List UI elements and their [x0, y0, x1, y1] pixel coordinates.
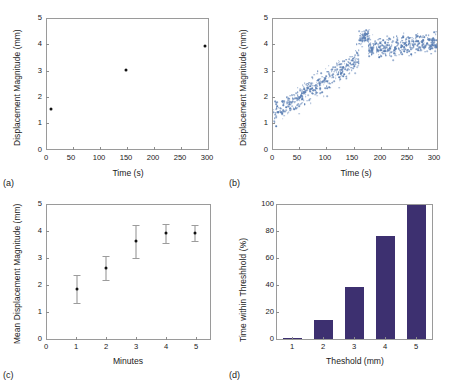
scatter-cloud: [273, 19, 437, 149]
scatter-point: [417, 45, 419, 47]
scatter-point: [306, 100, 308, 102]
xtick: 2: [98, 343, 114, 351]
scatter-point: [411, 54, 413, 56]
ytick: 0: [250, 335, 274, 343]
scatter-point: [377, 43, 379, 45]
panel-letter-b: (b): [229, 178, 240, 188]
scatter-point: [302, 97, 304, 99]
scatter-point: [355, 72, 357, 74]
ytick: 4: [24, 40, 42, 48]
scatter-point: [399, 50, 401, 52]
scatter-point: [416, 48, 418, 50]
panel-d-xlabel: Theshold (mm): [304, 356, 406, 366]
scatter-point: [323, 80, 325, 82]
scatter-point: [348, 73, 350, 75]
scatter-point: [294, 101, 296, 103]
scatter-point: [366, 33, 368, 35]
scatter-point: [413, 43, 415, 45]
scatter-point: [404, 50, 406, 52]
panel-c-ylabel: Mean Displacement Magnitude (mm): [12, 203, 22, 344]
scatter-point: [328, 77, 330, 79]
scatter-point: [338, 60, 340, 62]
panel-b: Displacement Magnitude (mm) 5 4 3 2 1 0 …: [226, 0, 453, 195]
scatter-point: [429, 48, 431, 50]
scatter-point: [435, 39, 437, 41]
scatter-point: [307, 94, 309, 96]
scatter-point: [423, 40, 425, 42]
scatter-point: [291, 94, 293, 96]
scatter-point: [389, 38, 391, 40]
scatter-point: [302, 102, 304, 104]
scatter-point: [303, 99, 305, 101]
scatter-point: [419, 46, 421, 48]
panel-b-ylabel: Displacement Magnitude (mm): [238, 29, 248, 146]
xtick: 3: [128, 343, 144, 351]
xtick: 100: [89, 154, 109, 162]
scatter-point: [283, 100, 285, 102]
scatter-point: [371, 53, 373, 55]
xtick: 0: [264, 154, 280, 162]
scatter-point: [312, 93, 314, 95]
scatter-point: [363, 39, 365, 41]
scatter-point: [344, 74, 346, 76]
scatter-point: [361, 46, 363, 48]
scatter-point: [411, 48, 413, 50]
scatter-point: [348, 69, 350, 71]
scatter-point: [369, 55, 371, 57]
scatter-point: [274, 117, 276, 119]
scatter-point: [276, 125, 278, 127]
scatter-point: [319, 84, 321, 86]
scatter-point: [359, 35, 361, 37]
xtick: 300: [197, 154, 217, 162]
scatter-point: [339, 87, 341, 89]
scatter-point: [388, 39, 390, 41]
xtick: 200: [370, 154, 390, 162]
scatter-point: [379, 56, 381, 58]
errorbar-series: [47, 205, 210, 339]
scatter-point: [325, 81, 327, 83]
scatter-point: [424, 47, 426, 49]
scatter-point: [394, 51, 396, 53]
scatter-point: [303, 86, 305, 88]
scatter-point: [319, 89, 321, 91]
scatter-point: [326, 95, 328, 97]
bar-series: [277, 205, 432, 339]
errorbar-cap: [192, 225, 199, 226]
ytick: 0: [24, 146, 42, 154]
scatter-point: [376, 47, 378, 49]
scatter-point: [356, 53, 358, 55]
scatter-point: [325, 68, 327, 70]
scatter-point: [284, 102, 286, 104]
scatter-point: [423, 48, 425, 50]
data-point: [204, 45, 207, 48]
scatter-point: [276, 107, 278, 109]
scatter-point: [289, 95, 291, 97]
scatter-point: [298, 103, 300, 105]
scatter-point: [397, 39, 399, 41]
scatter-point: [336, 65, 338, 67]
scatter-point: [426, 43, 428, 45]
errorbar-cap: [103, 280, 110, 281]
scatter-point: [429, 45, 431, 47]
errorbar-cap: [132, 258, 139, 259]
scatter-point: [292, 105, 294, 107]
scatter-point: [289, 104, 291, 106]
scatter-point: [333, 71, 335, 73]
scatter-point: [421, 46, 423, 48]
scatter-point: [407, 49, 409, 51]
scatter-point: [402, 37, 404, 39]
scatter-point: [289, 108, 291, 110]
errorbar-cap: [162, 243, 169, 244]
scatter-point: [392, 40, 394, 42]
errorbar-cap: [132, 225, 139, 226]
scatter-point: [295, 93, 297, 95]
scatter-point: [273, 109, 275, 111]
scatter-point: [420, 50, 422, 52]
scatter-point: [328, 65, 330, 67]
scatter-point: [340, 66, 342, 68]
panel-d-plot-area: [276, 204, 433, 340]
scatter-point: [352, 64, 354, 66]
panel-d-ylabel: Time within Threshhold (%): [238, 238, 248, 342]
scatter-point: [345, 78, 347, 80]
xtick: 150: [116, 154, 136, 162]
